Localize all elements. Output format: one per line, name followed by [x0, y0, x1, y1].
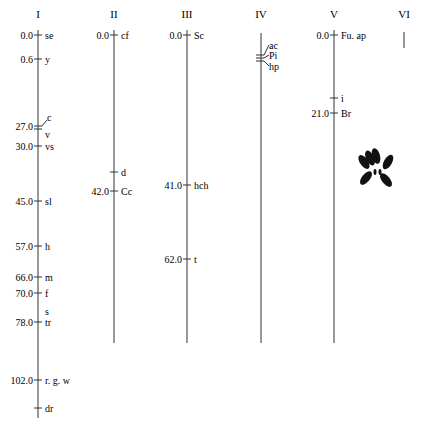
chromosome-label: V [330, 8, 338, 20]
map-position: 102.0 [11, 375, 34, 386]
map-position: 57.0 [16, 241, 34, 252]
chromosome-label: I [36, 8, 40, 20]
locus: 78.0tr [16, 317, 52, 328]
chromosome-label: III [182, 8, 193, 20]
chromosome-spread-icon [356, 147, 395, 188]
map-position: 0.0 [97, 30, 110, 41]
map-position: 27.0 [16, 121, 34, 132]
map-position: 21.0 [312, 108, 330, 119]
gene-label: h [45, 241, 50, 252]
gene-label: d [121, 167, 126, 178]
locus: s [45, 306, 49, 317]
locus: 42.0Cc [92, 186, 133, 197]
gene-label: f [45, 288, 49, 299]
chromosome-VI: VI [398, 8, 410, 48]
gene-label: se [45, 30, 54, 41]
gene-label: m [45, 272, 53, 283]
gene-label: cf [121, 30, 129, 41]
gene-label: hp [269, 61, 279, 72]
gene-label: i [341, 93, 344, 104]
map-position: 42.0 [92, 186, 110, 197]
locus: 0.0cf [97, 30, 130, 41]
locus: 102.0r. g. w [11, 375, 71, 386]
gene-label: vs [45, 141, 54, 152]
map-position: 70.0 [16, 288, 34, 299]
map-position: 41.0 [165, 180, 183, 191]
locus: 30.0vs [16, 141, 55, 152]
gene-label: v [45, 129, 50, 140]
chromosome-III: III0.0Sc41.0hch62.0t [165, 8, 209, 343]
chromosome-I: I0.0se0.6y27.0cv30.0vs45.0sl57.0h66.0m70… [11, 8, 71, 418]
chromosome-label: II [110, 8, 118, 20]
locus: 21.0Br [312, 108, 352, 119]
gene-label: s [45, 306, 49, 317]
chromosome-label: IV [255, 8, 267, 20]
locus: dr [34, 403, 54, 414]
gene-label: Sc [194, 30, 205, 41]
map-position: 30.0 [16, 141, 34, 152]
locus: 0.6y [21, 54, 51, 65]
gene-label: hch [194, 180, 208, 191]
locus: 62.0t [165, 254, 198, 265]
chromosome-label: VI [398, 8, 410, 20]
gene-label: tr [45, 317, 52, 328]
gene-label: c [47, 112, 52, 123]
gene-label: Pi [269, 50, 278, 61]
locus: 57.0h [16, 241, 51, 252]
chromosome-V: V0.0Fu. api21.0Br [312, 8, 367, 343]
map-position: 62.0 [165, 254, 183, 265]
gene-label: Fu. ap [341, 30, 366, 41]
locus: 0.0Fu. ap [317, 30, 367, 41]
gene-label: r. g. w [45, 375, 71, 386]
gene-label: y [45, 54, 50, 65]
locus: 70.0f [16, 288, 50, 299]
locus: 0.0se [21, 30, 54, 41]
locus: i [330, 93, 344, 104]
map-position: 0.0 [170, 30, 183, 41]
gene-label: Cc [121, 186, 133, 197]
linkage-map: I0.0se0.6y27.0cv30.0vs45.0sl57.0h66.0m70… [0, 0, 421, 428]
locus: 66.0m [16, 272, 54, 283]
map-position: 0.0 [21, 30, 34, 41]
gene-label: Br [341, 108, 352, 119]
map-position: 78.0 [16, 317, 34, 328]
chromosome-IV: IVacPihp [255, 8, 279, 343]
locus: v [45, 129, 50, 140]
locus: d [110, 167, 126, 178]
gene-label: sl [45, 196, 52, 207]
map-position: 0.0 [317, 30, 330, 41]
chromosome-II: II0.0cfd42.0Cc [92, 8, 133, 343]
gene-label: dr [45, 403, 54, 414]
locus: 45.0sl [16, 196, 52, 207]
map-position: 66.0 [16, 272, 34, 283]
gene-label: t [194, 254, 197, 265]
map-position: 0.6 [21, 54, 34, 65]
map-position: 45.0 [16, 196, 34, 207]
